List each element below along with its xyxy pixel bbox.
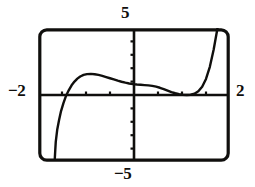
calculator-screen (38, 28, 230, 162)
y-min-label: −5 (114, 165, 131, 182)
y-max-label: 5 (121, 4, 129, 21)
calculator-graph-figure: 5 −2 2 −5 (0, 0, 255, 187)
x-min-label: −2 (8, 82, 25, 99)
x-max-label: 2 (236, 82, 244, 99)
graph-canvas (38, 28, 230, 162)
